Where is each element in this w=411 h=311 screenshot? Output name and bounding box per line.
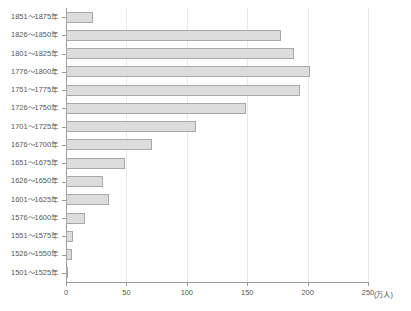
y-axis-tick-label: 1776〜1800年 (11, 63, 58, 81)
y-axis-tick-label: 1501〜1525年 (11, 264, 58, 282)
y-axis-tick (62, 182, 66, 183)
x-axis-tick (126, 282, 127, 286)
y-axis-tick (62, 17, 66, 18)
y-axis-tick-label: 1626〜1650年 (11, 172, 58, 190)
y-axis-tick (62, 200, 66, 201)
bar-chart: 1851〜1875年1826〜1850年1801〜1825年1776〜1800年… (0, 0, 411, 311)
x-axis-tick (308, 282, 309, 286)
bar-row (66, 227, 368, 245)
x-axis-tick-label: 150 (241, 288, 253, 297)
y-axis-tick (62, 35, 66, 36)
bar-row (66, 99, 368, 117)
y-axis-tick-label: 1551〜1575年 (11, 227, 58, 245)
bar[interactable] (66, 213, 85, 224)
bar-row (66, 45, 368, 63)
bar-row (66, 26, 368, 44)
y-axis-tick (62, 108, 66, 109)
bar-row (66, 154, 368, 172)
bar[interactable] (66, 103, 246, 114)
x-axis-tick-label: 0 (64, 288, 68, 297)
x-axis-tick (66, 282, 67, 286)
y-axis-tick-label: 1576〜1600年 (11, 209, 58, 227)
x-axis-tick-label: 250 (362, 288, 374, 297)
bar[interactable] (66, 158, 125, 169)
y-axis-tick-label: 1526〜1550年 (11, 245, 58, 263)
x-axis-tick-label: 200 (301, 288, 313, 297)
y-axis-tick-label: 1651〜1675年 (11, 154, 58, 172)
bar[interactable] (66, 194, 109, 205)
y-axis-tick (62, 127, 66, 128)
y-axis-tick (62, 72, 66, 73)
bar-row (66, 209, 368, 227)
y-axis-tick-label: 1676〜1700年 (11, 136, 58, 154)
x-axis-tick (187, 282, 188, 286)
x-axis-unit-label: (万人) (374, 288, 393, 299)
bar[interactable] (66, 139, 152, 150)
bar-row (66, 8, 368, 26)
x-axis-tick (368, 282, 369, 286)
bar-row (66, 136, 368, 154)
y-axis-tick-label: 1801〜1825年 (11, 45, 58, 63)
y-axis-tick-label: 1726〜1750年 (11, 99, 58, 117)
bars-layer (66, 8, 368, 282)
y-axis-tick (62, 273, 66, 274)
y-axis-tick (62, 54, 66, 55)
bar-row (66, 191, 368, 209)
bar[interactable] (66, 231, 73, 242)
y-axis-tick-label: 1701〜1725年 (11, 118, 58, 136)
bar-row (66, 172, 368, 190)
bar[interactable] (66, 66, 310, 77)
y-axis-tick-label: 1851〜1875年 (11, 8, 58, 26)
y-axis-tick (62, 145, 66, 146)
bar-row (66, 245, 368, 263)
x-axis-tick (247, 282, 248, 286)
y-axis-tick-label: 1601〜1625年 (11, 191, 58, 209)
bar[interactable] (66, 30, 281, 41)
bar-row (66, 81, 368, 99)
y-axis-tick-label: 1826〜1850年 (11, 26, 58, 44)
y-axis-labels: 1851〜1875年1826〜1850年1801〜1825年1776〜1800年… (0, 8, 66, 282)
y-axis-tick (62, 236, 66, 237)
x-axis-line (66, 282, 368, 283)
bar-row (66, 264, 368, 282)
gridline-vertical (368, 8, 369, 282)
y-axis-tick (62, 218, 66, 219)
bar[interactable] (66, 85, 300, 96)
bar-row (66, 118, 368, 136)
bar[interactable] (66, 121, 196, 132)
bar[interactable] (66, 48, 294, 59)
bar[interactable] (66, 176, 103, 187)
y-axis-tick (62, 255, 66, 256)
bar[interactable] (66, 249, 72, 260)
y-axis-tick (62, 90, 66, 91)
bar[interactable] (66, 267, 68, 278)
y-axis-tick-label: 1751〜1775年 (11, 81, 58, 99)
bar-row (66, 63, 368, 81)
x-axis-tick-label: 50 (122, 288, 130, 297)
bar[interactable] (66, 12, 93, 23)
y-axis-tick (62, 163, 66, 164)
x-axis-tick-label: 100 (181, 288, 193, 297)
